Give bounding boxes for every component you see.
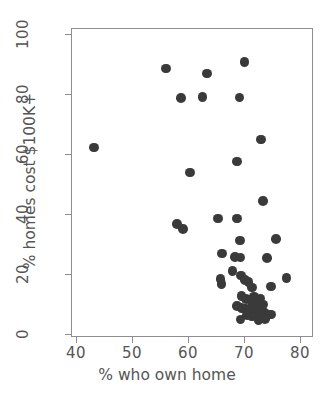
data-point xyxy=(89,143,99,153)
data-point xyxy=(282,273,292,283)
data-point xyxy=(236,315,246,325)
scatter-plot-figure: % who own home % homes cost $100K+ 40506… xyxy=(0,0,334,395)
x-tick-mark xyxy=(188,337,189,343)
data-point xyxy=(232,157,242,167)
data-point xyxy=(266,282,276,292)
data-point xyxy=(240,57,250,67)
y-tick-mark xyxy=(65,154,71,155)
y-tick-mark xyxy=(65,94,71,95)
data-point xyxy=(161,64,171,74)
data-point xyxy=(178,224,188,234)
data-point xyxy=(213,214,223,224)
plot-area-frame xyxy=(71,28,313,337)
data-point xyxy=(235,236,245,246)
data-point xyxy=(185,168,195,178)
y-tick-mark xyxy=(65,274,71,275)
data-point xyxy=(202,69,212,79)
y-tick-label: 40 xyxy=(14,191,32,237)
x-tick-mark xyxy=(300,337,301,343)
x-axis-label: % who own home xyxy=(0,366,334,384)
y-tick-label: 80 xyxy=(14,71,32,117)
x-tick-label: 40 xyxy=(56,344,96,362)
data-point xyxy=(217,279,227,289)
y-tick-label: 60 xyxy=(14,131,32,177)
data-point xyxy=(260,314,270,324)
data-point xyxy=(271,234,281,244)
y-tick-label: 20 xyxy=(14,251,32,297)
data-point xyxy=(262,253,272,263)
y-tick-mark xyxy=(65,34,71,35)
y-tick-label: 0 xyxy=(14,311,32,357)
y-tick-mark xyxy=(65,334,71,335)
y-tick-mark xyxy=(65,214,71,215)
data-point xyxy=(256,135,266,145)
x-tick-mark xyxy=(244,337,245,343)
x-tick-label: 60 xyxy=(168,344,208,362)
data-point xyxy=(232,214,242,224)
data-point xyxy=(176,93,186,103)
data-point xyxy=(236,253,246,263)
data-point xyxy=(217,249,227,259)
x-tick-mark xyxy=(76,337,77,343)
data-point xyxy=(247,283,257,293)
x-tick-label: 80 xyxy=(280,344,320,362)
data-point xyxy=(235,93,245,103)
y-tick-label: 100 xyxy=(14,11,32,57)
data-point xyxy=(258,196,268,206)
x-tick-label: 50 xyxy=(112,344,152,362)
data-points-layer xyxy=(72,29,312,336)
x-tick-label: 70 xyxy=(224,344,264,362)
data-point xyxy=(198,92,208,102)
x-tick-mark xyxy=(132,337,133,343)
